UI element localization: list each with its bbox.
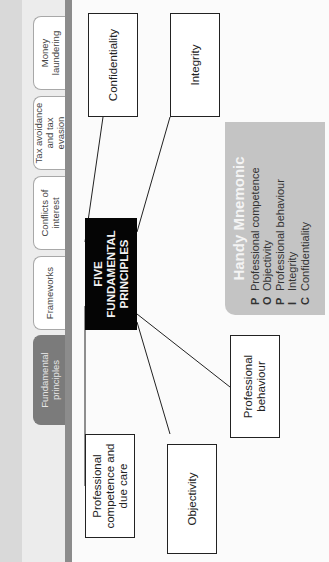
mnemonic-panel: Handy Mnemonic P Professional competence… (225, 122, 325, 315)
mnemonic-letter: O (261, 291, 273, 305)
mnemonic-item: O Objectivity (261, 132, 273, 305)
mnemonic-item: C Confidentiality (299, 132, 311, 305)
node-confidentiality: Confidentiality (88, 13, 138, 117)
node-integrity: Integrity (170, 13, 220, 117)
mnemonic-text: Professional behaviour (274, 179, 286, 291)
mnemonic-text: Professional competence (249, 167, 261, 291)
mnemonic-text: Objectivity (261, 240, 273, 291)
mnemonic-letter: P (274, 291, 286, 305)
page: Fundamental principles Frameworks Confli… (0, 0, 329, 562)
node-objectivity: Objectivity (167, 444, 217, 554)
mnemonic-item: I Integrity (286, 132, 298, 305)
line-to-integrity (137, 117, 170, 232)
line-to-professional-behaviour (137, 314, 230, 387)
mnemonic-text: Integrity (286, 252, 298, 291)
mnemonic-item: P Professional competence (249, 132, 261, 305)
node-professional-competence: Professional competence and due care (85, 434, 135, 538)
mnemonic-letter: P (249, 291, 261, 305)
mnemonic-letter: I (286, 291, 298, 305)
mnemonic-text: Confidentiality (299, 222, 311, 291)
node-professional-behaviour: Professional behaviour (230, 335, 280, 438)
mnemonic-item: P Professional behaviour (274, 132, 286, 305)
center-node-five-principles: FIVE FUNDAMENTAL PRINCIPLES (85, 218, 137, 330)
mnemonic-letter: C (299, 291, 311, 305)
line-to-objectivity (137, 322, 170, 434)
mnemonic-title: Handy Mnemonic (230, 132, 247, 305)
